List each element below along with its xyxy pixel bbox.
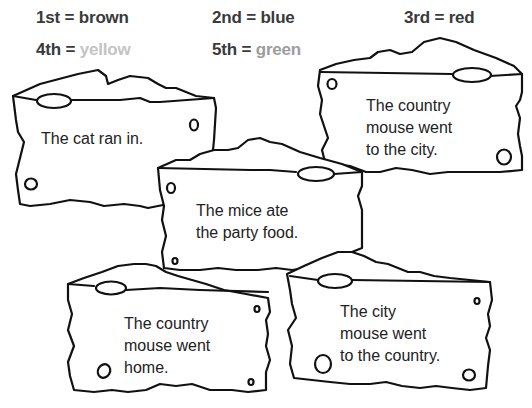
- hole-icon: [167, 183, 175, 193]
- hole-icon: [25, 179, 37, 190]
- hole-icon: [453, 68, 491, 82]
- cheese-caption-3: The mice ate the party food.: [196, 200, 298, 244]
- hole-icon: [298, 167, 334, 181]
- cheese-caption-5: The city mouse went to the country.: [340, 301, 440, 367]
- hole-icon: [463, 370, 475, 381]
- hole-icon: [37, 94, 71, 108]
- cheese-caption-2: The country mouse went to the city.: [366, 95, 452, 161]
- hole-icon: [190, 120, 198, 131]
- cheese-caption-1: The cat ran in.: [41, 128, 143, 150]
- hole-icon: [318, 274, 352, 288]
- hole-icon: [255, 306, 260, 312]
- hole-icon: [96, 282, 126, 295]
- hole-icon: [315, 355, 331, 373]
- hole-icon: [249, 379, 254, 385]
- hole-icon: [328, 79, 337, 89]
- hole-icon: [475, 298, 480, 304]
- hole-icon: [497, 150, 511, 165]
- cheese-caption-4: The country mouse went home.: [124, 313, 210, 379]
- hole-icon: [173, 258, 178, 264]
